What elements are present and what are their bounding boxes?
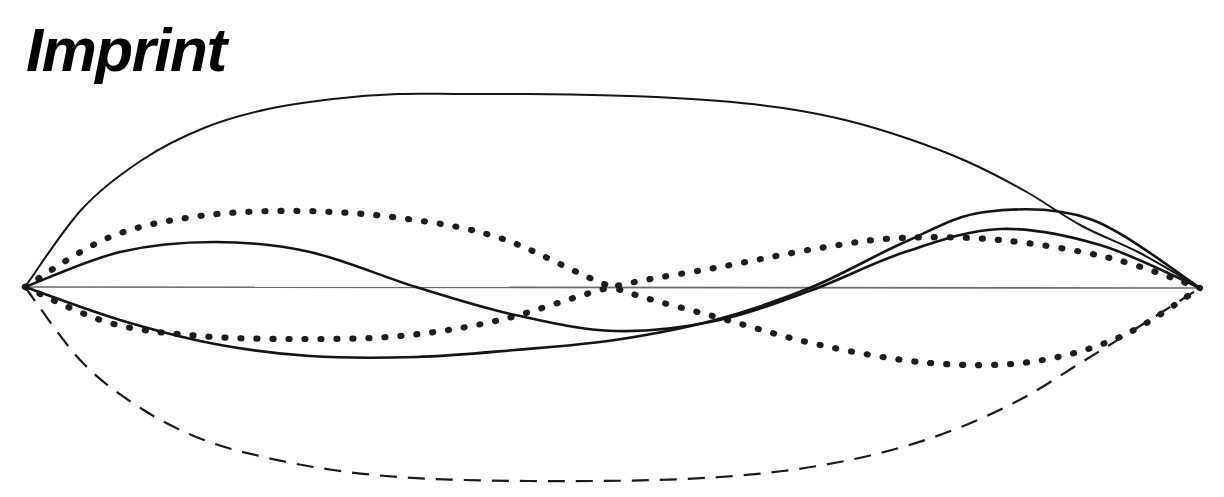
baseline-axis xyxy=(25,287,1200,288)
curve-mode-2-solid-a xyxy=(25,229,1200,331)
wave-mode-diagram xyxy=(0,0,1224,497)
figure-canvas: Imprint xyxy=(0,0,1224,497)
curve-mode-1-negative xyxy=(25,287,1200,481)
curve-mode-1-positive xyxy=(25,94,1200,288)
curve-mode-2-solid-b xyxy=(25,209,1200,358)
